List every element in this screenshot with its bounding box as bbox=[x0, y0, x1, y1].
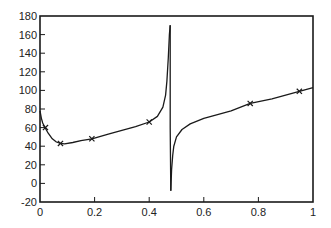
series-curve-drop bbox=[170, 25, 171, 191]
y-tick-label: -20 bbox=[21, 196, 37, 208]
y-tick-label: 80 bbox=[25, 103, 37, 115]
markers-layer bbox=[43, 89, 302, 146]
y-tick-label: 100 bbox=[19, 84, 37, 96]
y-tick-label: 180 bbox=[19, 10, 37, 22]
x-tick-label: 0.4 bbox=[142, 206, 157, 218]
y-tick-label: 20 bbox=[25, 159, 37, 171]
plot-frame bbox=[40, 16, 313, 202]
x-tick-labels: 00.20.40.60.81 bbox=[37, 206, 316, 218]
y-tick-label: 160 bbox=[19, 29, 37, 41]
series-curve bbox=[40, 25, 170, 144]
series-layer bbox=[40, 25, 313, 191]
y-tick-label: 40 bbox=[25, 140, 37, 152]
y-tick-label: 120 bbox=[19, 66, 37, 78]
axis-ticks bbox=[40, 35, 258, 202]
y-tick-label: 0 bbox=[31, 177, 37, 189]
chart: -20020406080100120140160180 00.20.40.60.… bbox=[0, 0, 331, 228]
x-tick-label: 0 bbox=[37, 206, 43, 218]
x-tick-label: 0.2 bbox=[87, 206, 102, 218]
y-tick-labels: -20020406080100120140160180 bbox=[19, 10, 37, 208]
y-tick-label: 140 bbox=[19, 47, 37, 59]
series-curve-right bbox=[171, 88, 313, 191]
x-tick-label: 0.6 bbox=[196, 206, 211, 218]
y-tick-label: 60 bbox=[25, 122, 37, 134]
x-tick-label: 0.8 bbox=[251, 206, 266, 218]
x-tick-label: 1 bbox=[310, 206, 316, 218]
